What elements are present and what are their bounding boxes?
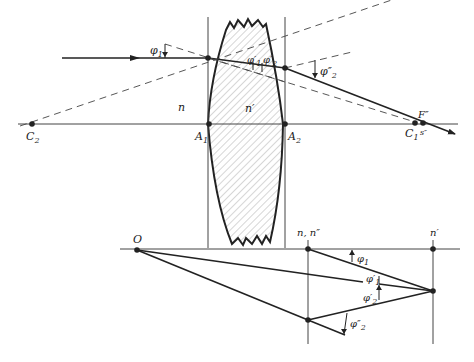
point-lower [305,317,311,323]
bottom-figure: O n, n″ n′ φ1 φ′1 φ′2 φ″2 [120,227,460,344]
top-figure: φ1 φ′1 φ′2 φ″2 n n′ C2 A1 A2 C1 F″ s″ [18,0,458,248]
label-n-prime-b: n′ [430,227,439,238]
label-phi1-b: φ1 [357,253,369,267]
label-phi2pp-b: φ″2 [350,318,366,332]
ray-lower-tail [308,320,345,335]
label-a1: A1 [194,130,208,145]
label-phi2p-b: φ′2 [363,292,377,306]
label-s: s″ [420,128,427,137]
label-a2: A2 [287,130,301,145]
point-convergence [430,288,436,294]
lens-body [208,19,283,245]
point-c2 [29,121,35,127]
ray-o-to-mid [137,250,363,282]
label-phi1p-b: φ′1 [366,273,380,287]
thick-lens-diagram: φ1 φ′1 φ′2 φ″2 n n′ C2 A1 A2 C1 F″ s″ [0,0,474,362]
incident-ray-arrow-icon [130,55,140,61]
label-c1: C1 [405,127,419,142]
point-n-prime [430,246,436,252]
point-n [305,246,311,252]
label-o: O [133,233,142,246]
label-f: F″ [417,109,429,120]
angle-arrow-phi2pp-icon [312,73,318,78]
extension-line-2 [285,52,352,68]
angle-arrow-phi1-icon [162,52,168,57]
label-c2: C2 [26,130,40,145]
label-phi1: φ1 [150,44,163,59]
point-a1 [206,121,212,127]
point-incidence-1 [205,55,211,61]
point-f [420,120,426,126]
ray-o-to-lower [137,250,308,320]
label-n: n [178,101,185,114]
label-n-prime: n′ [245,102,255,115]
label-phi2pp: φ″2 [320,65,337,80]
point-incidence-2 [282,65,288,71]
angle-arrow-phi1-b-icon [349,250,355,255]
point-c1 [412,120,418,126]
point-o [134,247,140,253]
ray-n-to-nprime [308,249,433,291]
point-a2 [282,121,288,127]
label-n-npp: n, n″ [297,227,320,238]
